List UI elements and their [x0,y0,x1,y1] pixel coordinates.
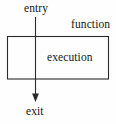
execution-label: execution [47,52,93,64]
function-label: function [71,19,110,31]
diagram-canvas: entry function execution exit [0,0,116,124]
exit-label: exit [26,106,44,118]
entry-label: entry [24,3,48,15]
arrowhead-icon [32,94,39,103]
